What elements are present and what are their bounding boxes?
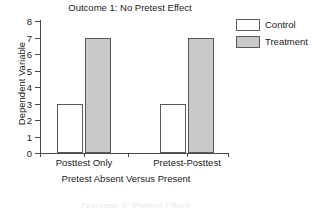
y-tick-8 bbox=[35, 21, 40, 22]
legend-label-control: Control bbox=[265, 18, 296, 31]
legend-item-treatment: Treatment bbox=[236, 34, 312, 51]
y-tick-label-8: 8 bbox=[18, 17, 32, 26]
y-tick-label-2: 2 bbox=[18, 116, 32, 125]
plot-area: 8 7 6 5 4 3 2 1 0 bbox=[40, 21, 228, 153]
legend-label-treatment: Treatment bbox=[265, 35, 308, 48]
y-tick-label-5: 5 bbox=[18, 67, 32, 76]
y-tick-1 bbox=[35, 137, 40, 138]
bar-posttest-only-control bbox=[57, 104, 83, 154]
legend-item-control: Control bbox=[236, 17, 312, 34]
y-tick-2 bbox=[35, 120, 40, 121]
y-tick-3 bbox=[35, 104, 40, 105]
chart-figure: Outcome 1: No Pretest Effect Dependent V… bbox=[0, 0, 312, 208]
y-tick-label-6: 6 bbox=[18, 50, 32, 59]
legend: Control Treatment bbox=[236, 17, 312, 51]
x-axis-label: Pretest Absent Versus Present bbox=[26, 173, 226, 185]
y-tick-label-4: 4 bbox=[18, 83, 32, 92]
chart-title: Outcome 1: No Pretest Effect bbox=[40, 2, 220, 14]
bar-pretest-posttest-treatment bbox=[188, 38, 214, 154]
partial-next-figure-title: Outcome 2: Pretest Effect bbox=[40, 200, 230, 208]
y-tick-5 bbox=[35, 71, 40, 72]
bar-posttest-only-treatment bbox=[85, 38, 111, 154]
y-tick-label-1: 1 bbox=[18, 133, 32, 142]
y-tick-label-3: 3 bbox=[18, 100, 32, 109]
y-tick-6 bbox=[35, 54, 40, 55]
y-tick-label-0: 0 bbox=[18, 149, 32, 158]
x-tick-label-pretest-posttest: Pretest-Posttest bbox=[140, 157, 234, 169]
legend-swatch-control-icon bbox=[236, 19, 260, 31]
legend-swatch-treatment-icon bbox=[236, 36, 260, 48]
x-tick-label-posttest-only: Posttest Only bbox=[37, 157, 131, 169]
y-tick-7 bbox=[35, 38, 40, 39]
y-tick-label-7: 7 bbox=[18, 34, 32, 43]
bar-pretest-posttest-control bbox=[160, 104, 186, 154]
x-axis-line bbox=[40, 153, 228, 154]
y-tick-4 bbox=[35, 87, 40, 88]
